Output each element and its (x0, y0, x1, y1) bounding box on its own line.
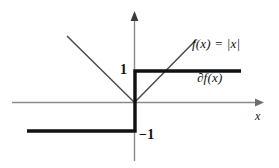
plot-svg (0, 0, 279, 168)
abs-value-curve (67, 36, 196, 103)
function-label: f(x) = |x| (192, 37, 240, 50)
y-tick-label-minus-one: −1 (139, 128, 154, 142)
y-tick-label-one: 1 (120, 63, 127, 77)
subgradient-label: ∂f(x) (197, 71, 222, 84)
y-axis-arrowhead (131, 11, 139, 21)
figure-canvas: 1 −1 f(x) = |x| ∂f(x) x (0, 0, 279, 168)
x-axis-arrowhead (255, 99, 264, 107)
x-axis-label: x (255, 110, 261, 122)
